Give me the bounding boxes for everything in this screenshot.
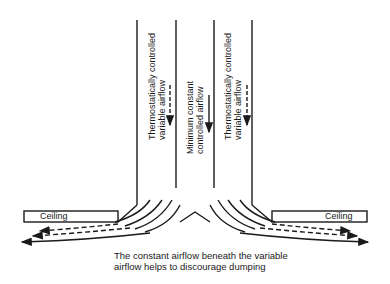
caption: The constant airflow beneath the variabl… <box>114 250 288 272</box>
left-duct-label: Thermostatically controlled variable air… <box>147 33 167 140</box>
center-deflector <box>180 212 210 222</box>
left-duct-label-line1: Thermostatically controlled <box>147 33 157 140</box>
ceiling-right-label: Ceiling <box>325 211 353 221</box>
ceiling-left <box>24 211 118 222</box>
center-duct-label: Minimum constant controlled airflow <box>185 81 205 154</box>
right-duct-label-line1: Thermostatically controlled <box>223 33 233 140</box>
caption-line1: The constant airflow beneath the variabl… <box>114 250 288 261</box>
center-duct-label-line1: Minimum constant <box>185 81 195 154</box>
ceiling-left-label: Ceiling <box>40 211 68 221</box>
left-duct-label-line2: variable airflow <box>157 33 167 140</box>
right-duct-label: Thermostatically controlled variable air… <box>223 33 243 140</box>
center-duct-label-line2: controlled airflow <box>195 81 205 154</box>
caption-line2: airflow helps to discourage dumping <box>114 261 288 272</box>
right-duct-label-line2: variable airflow <box>233 33 243 140</box>
ceiling-right <box>272 211 367 222</box>
